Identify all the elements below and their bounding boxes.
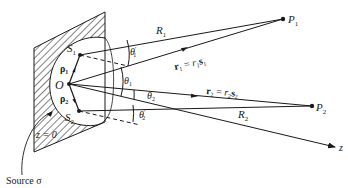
- point-S2: [77, 109, 81, 113]
- label-R2: R2: [237, 108, 249, 123]
- label-theta2p: θ′2: [139, 109, 146, 121]
- point-O: [67, 82, 71, 86]
- ray-lines: [69, 19, 335, 147]
- label-R1: R1: [155, 24, 167, 39]
- label-plane: z = 0: [35, 129, 57, 140]
- label-P1: P1: [287, 13, 299, 28]
- point-P2: [310, 104, 314, 108]
- label-z-axis: z: [338, 142, 343, 153]
- label-O: O: [55, 78, 64, 92]
- label-theta1: θ1: [124, 75, 132, 87]
- label-rho1: ρ1: [60, 63, 68, 75]
- z-axis: [69, 84, 335, 147]
- label-P2: P2: [315, 101, 327, 116]
- point-P1: [281, 17, 285, 21]
- label-r1-eq: r1 = r1s1: [173, 55, 207, 73]
- label-source: Source σ: [6, 175, 42, 186]
- label-rho2: ρ2: [60, 93, 68, 105]
- R2-line: [79, 106, 312, 111]
- label-theta1p: θ′1: [130, 46, 137, 58]
- diagram-canvas: O S1 S2 P1 P2 ρ1 ρ2 R1 R2 θ′1 θ1 θ2 θ′2 …: [0, 0, 348, 188]
- point-S1: [78, 53, 82, 57]
- label-S1: S1: [67, 42, 77, 57]
